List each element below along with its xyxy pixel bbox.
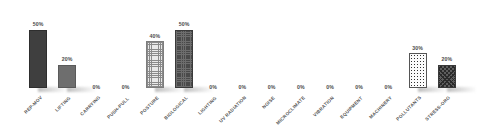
bar-value-label: 0% [239, 85, 247, 90]
bar-value-label: 30% [412, 46, 423, 51]
bar-value-label: 0% [355, 85, 363, 90]
x-axis-tick-label-text: STRESS-ORG [425, 96, 451, 122]
x-axis-tick-label: MICROCLIMATE [276, 96, 306, 126]
x-axis-labels: REP-MOVLIFTINGCARRYINGPUSH-PULLPOSTUREBI… [0, 96, 461, 139]
x-axis-tick-label: LIFTING [55, 96, 72, 113]
bar-slot: 0% [228, 0, 256, 96]
x-axis-tick-label: POLLUTANTS [396, 96, 423, 123]
bar[interactable] [146, 41, 164, 88]
x-axis-tick-label-text: EQUIPMENT [340, 96, 364, 120]
bar[interactable] [409, 53, 427, 88]
x-axis-tick-label-text: CARRYING [80, 96, 102, 118]
bar-slot: 0% [374, 0, 402, 96]
x-axis-tick-label-text: POLLUTANTS [396, 96, 423, 123]
bar[interactable] [438, 65, 456, 88]
bar-value-label: 0% [385, 85, 393, 90]
x-axis-tick-label-text: LIFTING [55, 96, 72, 113]
bar-value-label: 20% [62, 57, 73, 62]
x-axis-tick-label: POSTURE [140, 96, 160, 116]
x-axis-tick-label: VIBRATION [313, 96, 335, 118]
bar-slot: 0% [82, 0, 110, 96]
x-axis-tick-label-text: MACHINERY [369, 96, 393, 120]
bar-slot: 50% [170, 0, 198, 96]
x-axis-tick-label: LIGHTING [198, 96, 218, 116]
bar-slot: 0% [258, 0, 286, 96]
x-axis-tick-label: UV RADIATION [219, 96, 248, 125]
bar-slot: 0% [345, 0, 373, 96]
bar-value-label: 40% [149, 34, 160, 39]
bar-slot: 0% [287, 0, 315, 96]
x-axis-tick-label-text: POSTURE [140, 96, 160, 116]
bar[interactable] [29, 30, 47, 88]
bar-slot: 30% [404, 0, 432, 96]
bar-value-label: 20% [441, 57, 452, 62]
x-axis-tick-label: EQUIPMENT [340, 96, 364, 120]
bar-value-label: 50% [179, 22, 190, 27]
x-axis-tick-label-text: PUSH-PULL [107, 96, 130, 119]
x-axis-tick-label-text: LIGHTING [198, 96, 218, 116]
x-axis-tick-label: REP-MOV [24, 96, 44, 116]
bar-slot: 40% [141, 0, 169, 96]
x-axis-tick-label: MACHINERY [369, 96, 393, 120]
bar-value-label: 0% [93, 85, 101, 90]
bar-value-label: 0% [326, 85, 334, 90]
bar[interactable] [175, 30, 193, 88]
bar-slot: 0% [316, 0, 344, 96]
x-axis-tick-label-text: VIBRATION [313, 96, 335, 118]
bar[interactable] [58, 65, 76, 88]
bar-value-label: 50% [33, 22, 44, 27]
bar-slot: 20% [433, 0, 461, 96]
bar-slot: 50% [24, 0, 52, 96]
x-axis-tick-label: CARRYING [80, 96, 102, 118]
x-axis-tick-label: PUSH-PULL [107, 96, 130, 119]
x-axis-tick-label: STRESS-ORG [425, 96, 451, 122]
x-axis-tick-label-text: REP-MOV [24, 96, 44, 116]
bar-value-label: 0% [268, 85, 276, 90]
bar-value-label: 0% [209, 85, 217, 90]
bar-slot: 0% [112, 0, 140, 96]
x-axis-tick-label-text: NOISE [262, 96, 276, 110]
x-axis-tick-label-text: UV RADIATION [219, 96, 248, 125]
x-axis-tick-label: BIOLOGICAL [164, 96, 189, 121]
bar-slot: 0% [199, 0, 227, 96]
x-axis-tick-label-text: MICROCLIMATE [276, 96, 306, 126]
bar-value-label: 0% [122, 85, 130, 90]
x-axis-tick-label-text: BIOLOGICAL [164, 96, 189, 121]
plot-area: 50%20%0%0%40%50%0%0%0%0%0%0%0%30%20% [0, 0, 461, 96]
bar-value-label: 0% [297, 85, 305, 90]
bar-slot: 20% [53, 0, 81, 96]
x-axis-tick-label: NOISE [262, 96, 276, 110]
